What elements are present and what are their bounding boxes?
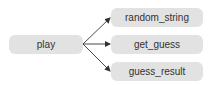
node-play: play	[9, 35, 83, 54]
edge-play-guess-result	[83, 44, 110, 71]
node-guess-result: guess_result	[111, 62, 203, 81]
node-label: play	[37, 39, 55, 50]
node-label: get_guess	[134, 39, 180, 50]
node-random-string: random_string	[111, 8, 203, 27]
edge-play-random-string	[83, 18, 110, 44]
node-get-guess: get_guess	[111, 35, 203, 54]
node-label: guess_result	[129, 66, 186, 77]
node-label: random_string	[125, 12, 189, 23]
